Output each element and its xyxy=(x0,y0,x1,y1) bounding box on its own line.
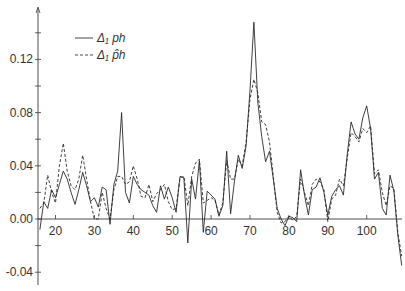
y-tick-label: -0.04 xyxy=(6,265,34,279)
x-tick-label: 40 xyxy=(127,224,141,238)
chart-axes xyxy=(36,7,402,285)
x-tick-label: 80 xyxy=(282,224,296,238)
y-tick-label: 0.08 xyxy=(10,106,34,120)
line-chart: -0.040.000.040.080.122030405060708090100… xyxy=(0,0,405,291)
y-tick-label: 0.04 xyxy=(10,159,34,173)
x-tick-label: 90 xyxy=(321,224,335,238)
x-tick-label: 60 xyxy=(204,224,218,238)
x-tick-label: 100 xyxy=(357,224,377,238)
x-tick-label: 70 xyxy=(243,224,257,238)
legend-label-dashed: Δ₁ p̂h xyxy=(96,48,126,62)
legend-label-solid: Δ₁ ph xyxy=(96,31,126,45)
y-tick-label: 0.00 xyxy=(10,212,34,226)
y-tick-label: 0.12 xyxy=(10,52,34,66)
legend: Δ₁ ph Δ₁ p̂h xyxy=(75,31,126,62)
x-tick-label: 30 xyxy=(88,224,102,238)
x-tick-label: 50 xyxy=(166,224,180,238)
x-tick-label: 20 xyxy=(49,224,63,238)
